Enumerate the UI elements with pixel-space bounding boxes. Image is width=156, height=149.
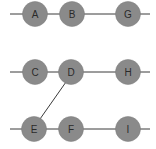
node-label: A xyxy=(32,9,39,20)
node-label: E xyxy=(31,124,38,135)
nodes: A B G C D H E F I xyxy=(22,2,141,142)
node-label: B xyxy=(69,9,76,20)
node-e: E xyxy=(22,117,47,142)
node-h: H xyxy=(116,60,141,85)
node-g: G xyxy=(116,2,141,27)
node-c: C xyxy=(23,60,48,85)
graph-diagram: A B G C D H E F I xyxy=(0,0,156,149)
node-label: H xyxy=(124,67,131,78)
node-d: D xyxy=(59,60,84,85)
node-b: B xyxy=(60,2,85,27)
node-label: D xyxy=(67,67,74,78)
edge-d-e xyxy=(40,82,66,119)
node-label: G xyxy=(124,9,132,20)
node-label: F xyxy=(68,124,74,135)
node-f: F xyxy=(59,117,84,142)
node-a: A xyxy=(23,2,48,27)
node-label: I xyxy=(127,124,130,135)
node-label: C xyxy=(31,67,38,78)
node-i: I xyxy=(116,117,141,142)
